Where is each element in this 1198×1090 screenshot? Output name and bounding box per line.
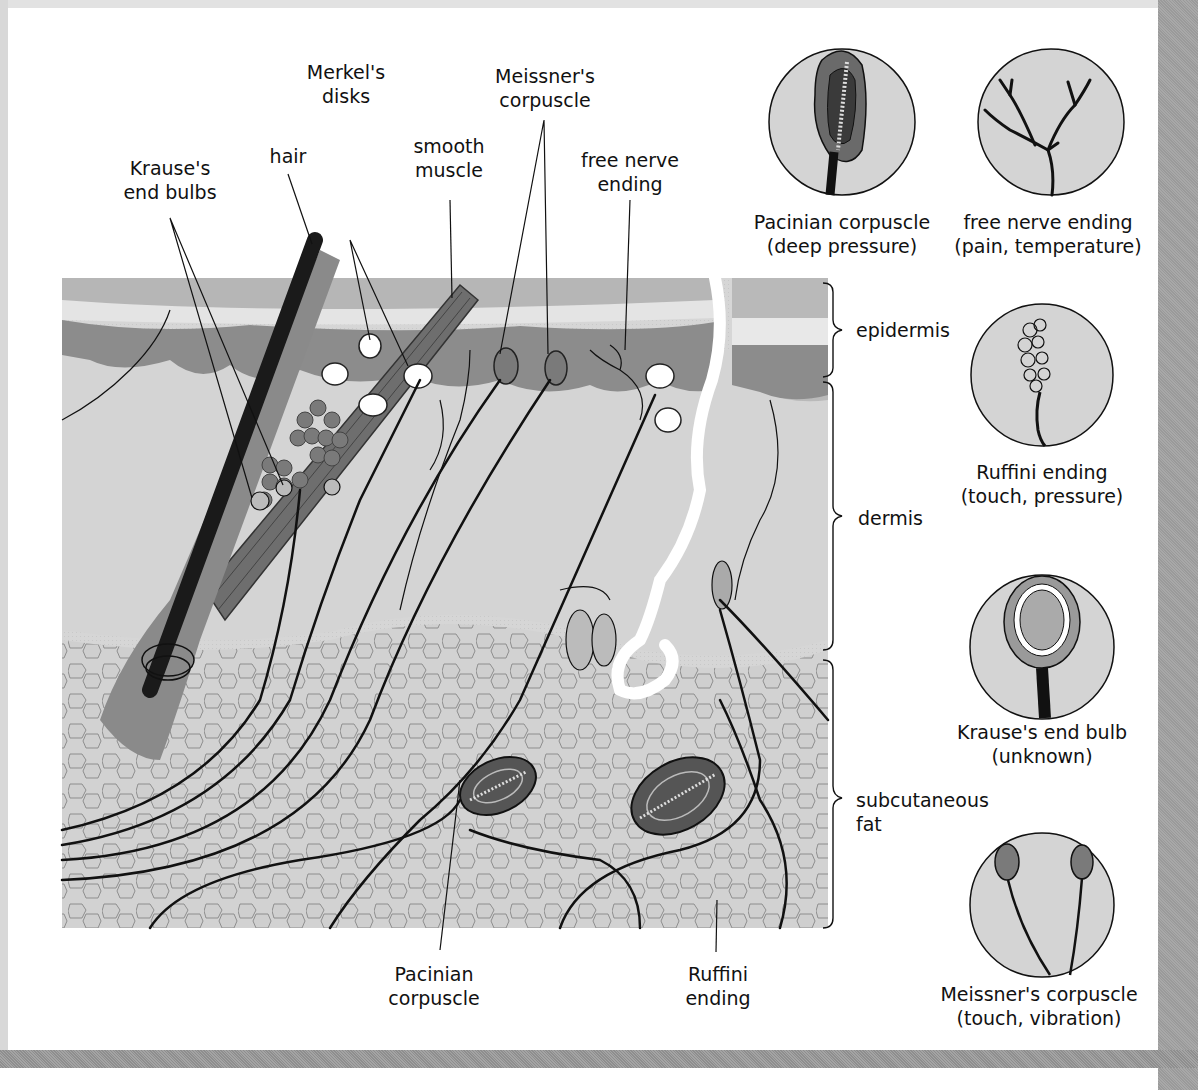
layer-label-epidermis: epidermis: [856, 318, 950, 342]
label-meissners-corpuscle: Meissner's corpuscle: [490, 64, 600, 112]
label-pacinian-corpuscle: Pacinian corpuscle: [384, 962, 484, 1010]
label-krause-end-bulbs: Krause's end bulbs: [110, 156, 230, 204]
inset-caption-free-nerve: free nerve ending (pain, temperature): [948, 210, 1148, 258]
inset-caption-pacinian: Pacinian corpuscle (deep pressure): [732, 210, 952, 258]
inset-caption-krause: Krause's end bulb (unknown): [940, 720, 1144, 768]
skin-block: [62, 240, 828, 928]
inset-ruffini: [971, 304, 1113, 446]
label-smooth-muscle: smooth muscle: [404, 134, 494, 182]
inset-free-nerve-ending: [978, 49, 1124, 195]
layer-label-subcutaneous-fat: subcutaneous fat: [856, 788, 989, 836]
label-ruffini-ending: Ruffini ending: [676, 962, 760, 1010]
label-merkels-disks: Merkel's disks: [296, 60, 396, 108]
inset-pacinian: [769, 49, 915, 195]
label-hair: hair: [262, 144, 314, 168]
layer-label-dermis: dermis: [858, 506, 923, 530]
inset-caption-ruffini: Ruffini ending (touch, pressure): [952, 460, 1132, 508]
inset-meissner: [970, 833, 1114, 977]
inset-caption-meissner: Meissner's corpuscle (touch, vibration): [926, 982, 1152, 1030]
inset-krause: [970, 575, 1114, 719]
label-free-nerve-ending: free nerve ending: [580, 148, 680, 196]
